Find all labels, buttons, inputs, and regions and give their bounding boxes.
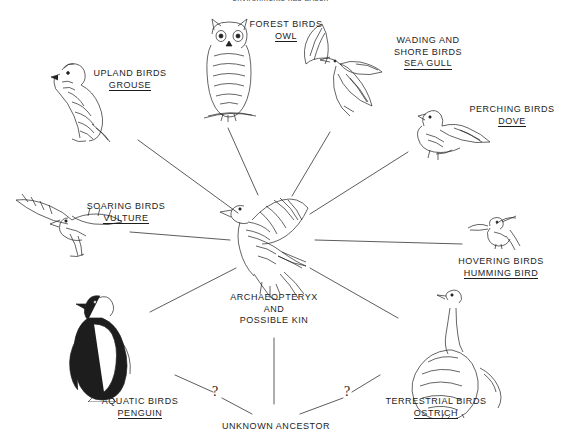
label-dove-species: DOVE	[498, 116, 526, 128]
label-dove-group: PERCHING BIRDS	[464, 104, 560, 116]
grouse-illustration	[42, 52, 112, 142]
label-ostrich-group: TERRESTRIAL BIRDS	[378, 396, 494, 408]
label-grouse: UPLAND BIRDS GROUSE	[84, 68, 176, 91]
label-seagull: WADING AND SHORE BIRDS SEA GULL	[382, 35, 474, 70]
label-penguin-species: PENGUIN	[118, 408, 163, 420]
label-hummingbird: HOVERING BIRDS HUMMING BIRD	[446, 256, 556, 279]
unknown-ancestor-text: UNKNOWN ANCESTOR	[206, 421, 346, 433]
label-grouse-species: GROUSE	[109, 80, 151, 92]
line-to-hummingbird	[315, 240, 462, 244]
label-vulture-group: SOARING BIRDS	[76, 201, 176, 213]
line-question-right-a	[352, 375, 380, 392]
line-question-right-b	[300, 398, 343, 414]
label-penguin: AQUATIC BIRDS PENGUIN	[88, 396, 192, 419]
diagram-canvas: environments has arisen	[0, 0, 561, 444]
label-dove: PERCHING BIRDS DOVE	[464, 104, 560, 127]
label-owl-group: FOREST BIRDS	[246, 19, 326, 31]
label-hummingbird-species: HUMMING BIRD	[464, 268, 539, 280]
center-line-2: AND	[210, 304, 338, 316]
label-seagull-species: SEA GULL	[404, 58, 452, 70]
label-vulture-species: VULTURE	[103, 213, 148, 225]
label-vulture: SOARING BIRDS VULTURE	[76, 201, 176, 224]
label-seagull-group-line2: SHORE BIRDS	[382, 47, 474, 59]
hummingbird-illustration	[466, 208, 522, 252]
line-question-left-a	[175, 375, 213, 392]
question-mark-left: ?	[212, 384, 218, 400]
line-to-vulture	[130, 232, 230, 240]
archaeopteryx-illustration	[218, 178, 334, 300]
label-unknown-ancestor: UNKNOWN ANCESTOR	[206, 421, 346, 433]
label-hummingbird-group: HOVERING BIRDS	[446, 256, 556, 268]
label-center-archaeopteryx: ARCHAEOPTERYX AND POSSIBLE KIN	[210, 292, 338, 327]
label-owl: FOREST BIRDS OWL	[246, 19, 326, 42]
label-ostrich-species: OSTRICH	[414, 408, 458, 420]
penguin-illustration	[60, 282, 150, 402]
label-grouse-group: UPLAND BIRDS	[84, 68, 176, 80]
question-mark-right: ?	[344, 384, 350, 400]
label-owl-species: OWL	[275, 31, 297, 43]
label-penguin-group: AQUATIC BIRDS	[88, 396, 192, 408]
center-line-1: ARCHAEOPTERYX	[210, 292, 338, 304]
line-question-left-b	[222, 398, 252, 414]
label-ostrich: TERRESTRIAL BIRDS OSTRICH	[378, 396, 494, 419]
center-line-3: POSSIBLE KIN	[210, 315, 338, 327]
label-seagull-group-line1: WADING AND	[382, 35, 474, 47]
